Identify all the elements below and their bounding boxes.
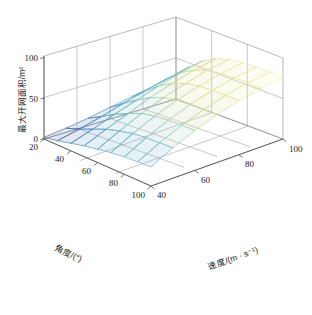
y-tick-label-80: 80 xyxy=(245,159,255,169)
z-tick-label-100: 100 xyxy=(25,53,39,63)
x-tick-label-60: 60 xyxy=(82,166,92,176)
y-tick-label-40: 40 xyxy=(157,190,167,200)
x-tick xyxy=(67,151,71,154)
z-tick-label-50: 50 xyxy=(29,94,39,104)
z-tick xyxy=(41,98,45,99)
z-tick xyxy=(41,58,45,59)
y-tick xyxy=(151,186,155,189)
x-axis-title: 角度/(°) xyxy=(53,243,84,264)
z-axis xyxy=(41,56,45,140)
y-axis-title: 速度/(m · s⁻¹) xyxy=(207,244,260,271)
surface-plot-3d: 100 50 0 最大开网面积/m² 20 40 60 80 100 角度/(°… xyxy=(0,0,312,315)
x-tick-label-100: 100 xyxy=(132,190,146,200)
y-tick xyxy=(239,155,243,158)
figure-canvas: 100 50 0 最大开网面积/m² 20 40 60 80 100 角度/(°… xyxy=(0,0,312,315)
x-tick xyxy=(148,186,152,189)
z-axis-title: 最大开网面积/m² xyxy=(17,67,27,133)
y-tick-label-100: 100 xyxy=(289,144,303,154)
y-tick xyxy=(283,139,287,142)
x-tick xyxy=(94,163,98,166)
x-tick-label-40: 40 xyxy=(55,154,65,164)
x-tick xyxy=(121,174,125,177)
y-tick-label-60: 60 xyxy=(201,175,211,185)
x-tick-label-20: 20 xyxy=(29,142,39,152)
x-tick-label-80: 80 xyxy=(109,178,119,188)
y-tick xyxy=(195,170,199,173)
